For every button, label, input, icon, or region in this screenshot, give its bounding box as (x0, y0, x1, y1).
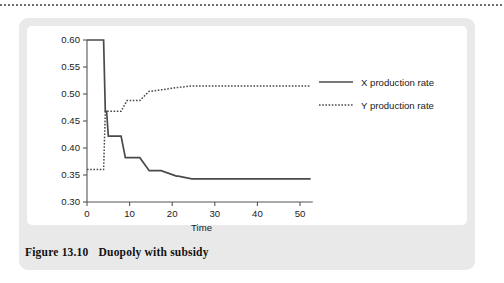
production-rate-chart: 0.300.350.400.450.500.550.60 01020304050… (19, 18, 475, 248)
y-tick-label: 0.50 (61, 88, 80, 99)
series-line (87, 86, 311, 170)
y-tick-label: 0.35 (61, 169, 80, 180)
x-tick-label: 0 (84, 208, 89, 219)
x-tick-label: 30 (209, 208, 220, 219)
series-line (87, 40, 311, 179)
x-axis-title: Time (191, 222, 212, 233)
y-tick-label: 0.60 (61, 34, 80, 45)
x-tick-label: 10 (124, 208, 135, 219)
x-axis-tick-labels: 01020304050 (84, 208, 305, 219)
figure-caption: Figure 13.10 Duopoly with subsidy (25, 240, 470, 264)
y-tick-label: 0.55 (61, 61, 80, 72)
x-tick-label: 40 (252, 208, 263, 219)
legend-label: X production rate (361, 77, 434, 88)
y-tick-label: 0.45 (61, 115, 80, 126)
x-tick-label: 50 (295, 208, 306, 219)
y-tick-label: 0.30 (61, 196, 80, 207)
x-tick-label: 20 (167, 208, 178, 219)
figure-caption-number: Figure 13.10 (25, 246, 89, 258)
chart-legend: X production rateY production rate (319, 77, 434, 111)
figure-caption-text: Duopoly with subsidy (99, 246, 209, 258)
tick-marks-group (83, 40, 300, 206)
data-series-group (87, 40, 311, 179)
y-axis-tick-labels: 0.300.350.400.450.500.550.60 (61, 34, 80, 207)
top-dotted-rule (0, 4, 504, 6)
y-tick-label: 0.40 (61, 142, 80, 153)
legend-label: Y production rate (361, 100, 434, 111)
axes-group (87, 40, 313, 202)
